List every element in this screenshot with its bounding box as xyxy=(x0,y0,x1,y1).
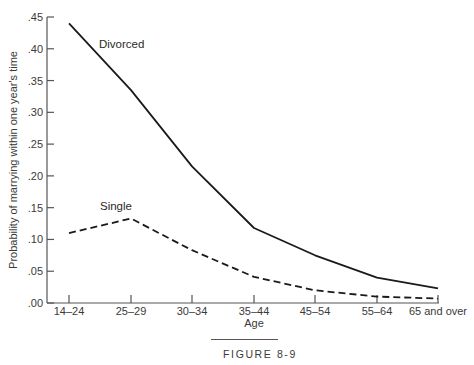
series-lines xyxy=(69,23,438,298)
single-line xyxy=(69,219,438,299)
divorced-label: Divorced xyxy=(99,38,144,50)
x-tick-label: 35–44 xyxy=(239,305,270,317)
y-axis: .00.05.10.15.20.25.30.35.40.45 xyxy=(28,11,54,309)
x-tick-label: 14–24 xyxy=(54,305,85,317)
x-axis-title: Age xyxy=(244,317,264,329)
x-tick-label: 55–64 xyxy=(362,305,393,317)
single-label: Single xyxy=(100,200,132,212)
y-tick-label: .15 xyxy=(28,202,43,214)
y-tick-label: .20 xyxy=(28,170,43,182)
y-tick-label: .30 xyxy=(28,106,43,118)
figure-caption: FIGURE 8-9 xyxy=(210,348,310,360)
x-tick-label: 30–34 xyxy=(177,305,208,317)
y-tick-label: .45 xyxy=(28,11,43,23)
x-tick-label: 65 and over xyxy=(409,305,467,317)
divorced-line xyxy=(69,23,438,288)
x-tick-label: 25–29 xyxy=(116,305,147,317)
y-tick-label: .00 xyxy=(28,297,43,309)
y-tick-label: .05 xyxy=(28,265,43,277)
line-chart: .00.05.10.15.20.25.30.35.40.45 14–2425–2… xyxy=(0,0,474,365)
x-tick-label: 45–54 xyxy=(300,305,331,317)
caption-rule xyxy=(211,339,278,340)
y-tick-label: .40 xyxy=(28,43,43,55)
y-tick-label: .25 xyxy=(28,138,43,150)
y-tick-label: .35 xyxy=(28,75,43,87)
y-tick-label: .10 xyxy=(28,233,43,245)
y-axis-title: Probability of marrying within one year'… xyxy=(7,51,19,269)
